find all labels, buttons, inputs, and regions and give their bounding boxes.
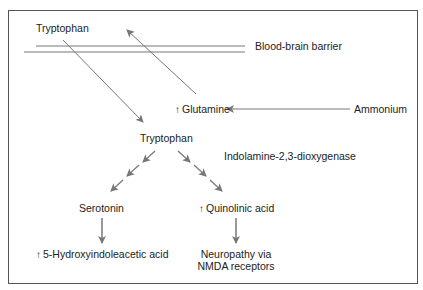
label-blood-brain-barrier: Blood-brain barrier	[255, 40, 342, 52]
node-5-hiaa: ↑5-Hydroxyindoleacetic acid	[36, 248, 168, 261]
arrow-glutamine-out	[127, 30, 196, 94]
node-quinolinic-acid: ↑Quinolinic acid	[199, 202, 274, 215]
node-tryptophan-blood: Tryptophan	[36, 22, 89, 34]
arrow-quinolinic-step1	[178, 151, 190, 162]
increase-arrow-icon: ↑	[199, 203, 204, 214]
node-serotonin: Serotonin	[79, 202, 124, 214]
label-enzyme: Indolamine-2,3-dioxygenase	[224, 150, 356, 162]
arrow-quinolinic-step3	[210, 180, 222, 191]
node-neuropathy: Neuropathy via NMDA receptors	[196, 248, 276, 272]
node-ammonium: Ammonium	[354, 103, 407, 115]
increase-arrow-icon: ↑	[175, 104, 180, 115]
neuropathy-line-2: NMDA receptors	[196, 260, 276, 272]
arrow-quinolinic-step2	[194, 165, 206, 176]
arrows-layer	[0, 0, 423, 290]
arrow-serotonin-step2	[127, 165, 139, 176]
neuropathy-line-1: Neuropathy via	[196, 248, 276, 260]
hiaa-label: 5-Hydroxyindoleacetic acid	[43, 248, 168, 260]
arrow-serotonin-step3	[111, 180, 123, 191]
increase-arrow-icon: ↑	[36, 249, 41, 260]
glutamine-label: Glutamine	[182, 103, 230, 115]
node-tryptophan-brain: Tryptophan	[140, 132, 193, 144]
arrow-serotonin-step1	[143, 151, 155, 162]
quinolinic-acid-label: Quinolinic acid	[206, 202, 274, 214]
node-glutamine: ↑Glutamine	[175, 103, 230, 116]
